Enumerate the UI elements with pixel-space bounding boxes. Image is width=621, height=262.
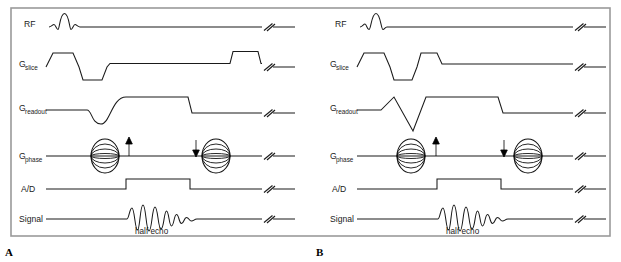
label-rf: RF [24, 19, 35, 29]
label-gphase-sub: phase [336, 156, 354, 164]
label-rf: RF [335, 19, 346, 29]
label-gslice-sub: slice [336, 64, 349, 71]
label-gphase-sub: phase [25, 156, 43, 164]
panel-a-half-echo-caption: half echo [135, 227, 169, 236]
label-signal: Signal [19, 214, 43, 224]
label-ad: A/D [332, 184, 346, 194]
label-greadout-sub: readout [25, 108, 47, 115]
figure-canvas: RF G slice G readout G phase A/D Signal [0, 0, 621, 262]
panel-a-letter: A [5, 246, 13, 258]
label-greadout-sub: readout [336, 108, 358, 115]
figure-border [11, 8, 610, 236]
panel-b-letter: B [316, 246, 324, 258]
label-gslice-sub: slice [25, 64, 38, 71]
label-signal: Signal [330, 214, 354, 224]
panel-b-half-echo-caption: half echo [446, 227, 480, 236]
pulse-sequence-figure: RF G slice G readout G phase A/D Signal [0, 0, 621, 262]
label-ad: A/D [21, 184, 35, 194]
